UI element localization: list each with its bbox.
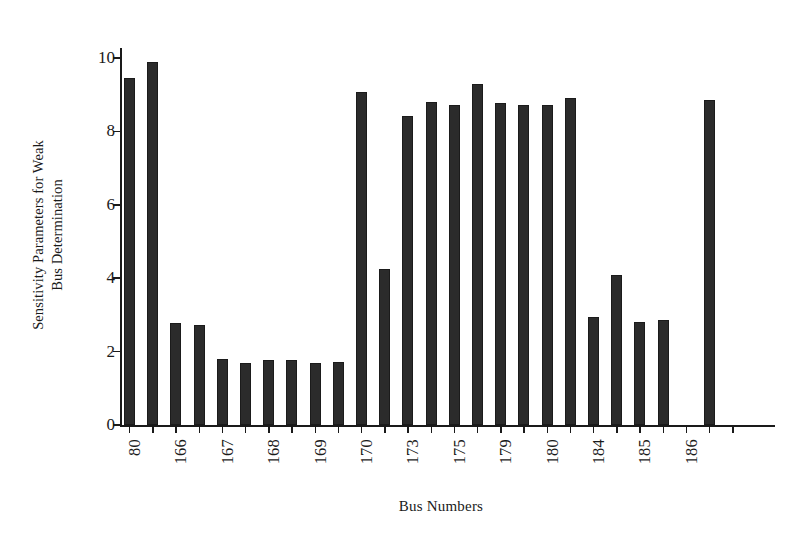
x-tick-mark (152, 425, 153, 433)
x-tick-mark (570, 425, 571, 433)
bar (542, 105, 553, 425)
bar (518, 105, 529, 425)
bar (310, 363, 321, 425)
x-tick-mark (361, 425, 362, 433)
plot-area: 0246810 80166167168169170173175179180184… (121, 58, 761, 425)
x-tick-label: 169 (311, 439, 331, 464)
x-tick-mark (663, 425, 664, 433)
bar (472, 84, 483, 425)
x-tick-mark (431, 425, 432, 433)
x-tick-mark (477, 425, 478, 433)
y-tick-label: 2 (107, 341, 116, 361)
x-tick-mark (593, 425, 594, 433)
x-tick-mark (547, 425, 548, 433)
bar (588, 317, 599, 425)
x-axis-line (120, 425, 775, 427)
x-tick-label: 185 (635, 439, 655, 464)
x-tick-mark (709, 425, 710, 433)
x-tick-mark (639, 425, 640, 433)
bar (124, 78, 135, 425)
y-tick-label: 6 (107, 194, 116, 214)
bar (449, 105, 460, 425)
x-tick-mark (222, 425, 223, 433)
x-tick-label: 80 (125, 439, 145, 456)
bar (379, 269, 390, 425)
x-tick-label: 184 (589, 439, 609, 464)
bar (565, 98, 576, 425)
x-axis-title: Bus Numbers (121, 498, 761, 515)
x-tick-mark (129, 425, 130, 433)
x-tick-mark (315, 425, 316, 433)
y-axis-line (120, 48, 122, 425)
x-tick-label: 186 (682, 439, 702, 464)
y-axis-title-line-1: Sensitivity Parameters for Weak (29, 140, 48, 330)
bar (611, 275, 622, 425)
bar (704, 100, 715, 425)
x-tick-mark (407, 425, 408, 433)
bar (170, 323, 181, 425)
bar (263, 360, 274, 425)
bar (658, 320, 669, 425)
bar (426, 102, 437, 425)
x-tick-label: 166 (171, 439, 191, 464)
x-tick-label: 179 (496, 439, 516, 464)
bar (217, 359, 228, 425)
x-tick-mark (268, 425, 269, 433)
y-tick-label: 8 (107, 121, 116, 141)
bar (240, 363, 251, 425)
x-tick-label: 168 (264, 439, 284, 464)
y-axis-title-container: Sensitivity Parameters for Weak Bus Dete… (0, 0, 96, 470)
y-tick-label: 4 (107, 268, 116, 288)
bar-chart-figure: Sensitivity Parameters for Weak Bus Dete… (0, 0, 807, 534)
x-tick-mark (523, 425, 524, 433)
y-axis-title-line-2: Bus Determination (48, 140, 67, 330)
x-tick-mark (199, 425, 200, 433)
x-tick-mark (338, 425, 339, 433)
x-tick-mark (686, 425, 687, 433)
bar (194, 325, 205, 425)
x-tick-label: 180 (543, 439, 563, 464)
x-tick-mark (616, 425, 617, 433)
y-tick-label: 10 (98, 48, 115, 68)
x-tick-mark (291, 425, 292, 433)
bar (402, 116, 413, 425)
x-tick-mark (175, 425, 176, 433)
bar (356, 92, 367, 425)
x-tick-mark (245, 425, 246, 433)
bar (634, 322, 645, 425)
x-tick-mark (384, 425, 385, 433)
x-tick-mark (500, 425, 501, 433)
x-tick-label: 175 (450, 439, 470, 464)
bar (333, 362, 344, 425)
x-tick-label: 173 (403, 439, 423, 464)
bar (286, 360, 297, 425)
bar (147, 62, 158, 425)
y-tick-label: 0 (107, 415, 116, 435)
bar (495, 103, 506, 425)
x-tick-label: 167 (218, 439, 238, 464)
x-tick-mark (732, 425, 733, 433)
x-tick-label: 170 (357, 439, 377, 464)
y-axis-title: Sensitivity Parameters for Weak Bus Dete… (29, 140, 67, 330)
x-tick-mark (454, 425, 455, 433)
